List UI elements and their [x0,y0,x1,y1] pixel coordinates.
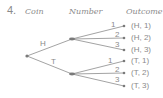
leaf-node [123,25,126,28]
branch-label-h-3: 3 [115,40,120,49]
leaf-node [123,85,126,88]
outcome-h1: (H, 1) [131,21,151,30]
outcome-t1: (T, 1) [131,56,149,65]
outcome-t3: (T, 3) [131,81,149,90]
outcome-t2: (T, 2) [131,68,149,77]
outcome-h3: (H, 3) [131,45,151,54]
leaf-node [123,72,126,75]
node-h [69,38,75,41]
branch-t [27,56,72,74]
branch-label-h-2: 2 [115,30,120,39]
branch-label-t-2: 2 [115,65,120,74]
node-t [69,73,75,76]
root-node [25,54,28,57]
branch-label-t: T [51,57,56,66]
branch-label-t-1: 1 [108,56,113,65]
branch-label-h: H [40,39,46,48]
leaf-node [123,37,126,40]
leaf-node [123,49,126,52]
leaf-node [123,60,126,63]
branch-label-t-3: 3 [115,75,120,84]
branch-label-h-1: 1 [111,20,116,29]
branch-h [27,39,72,56]
outcome-h2: (H, 2) [131,33,151,42]
